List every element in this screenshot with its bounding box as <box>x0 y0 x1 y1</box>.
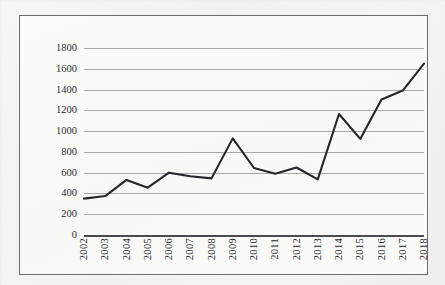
x-axis-tick-label: 2003 <box>100 238 111 260</box>
x-axis-tick-label: 2005 <box>143 238 154 260</box>
y-axis-tick-label: 0 <box>72 230 77 241</box>
plot-area: 020040060080010001200140016001800 <box>84 48 424 235</box>
y-axis-tick-label: 1200 <box>56 105 77 116</box>
data-line-series <box>84 64 424 199</box>
x-axis-tick-label: 2014 <box>334 238 345 260</box>
x-axis-tick-label: 2004 <box>122 238 133 260</box>
y-axis-tick-label: 800 <box>61 147 77 158</box>
y-axis-tick-label: 600 <box>61 167 77 178</box>
y-axis-tick-label: 1600 <box>56 64 77 75</box>
x-axis-tick-label: 2012 <box>292 238 303 260</box>
x-axis-tick-label: 2017 <box>398 238 409 260</box>
x-axis-tick-label: 2011 <box>270 238 281 260</box>
x-axis-tick-label: 2016 <box>377 238 388 260</box>
y-axis-tick-label: 1400 <box>56 84 77 95</box>
x-axis-tick-label: 2009 <box>228 238 239 260</box>
x-axis-tick-labels: 2002200320042005200620072008200920102011… <box>84 238 424 278</box>
chart-frame: 020040060080010001200140016001800 200220… <box>19 15 428 275</box>
y-axis-tick-label: 200 <box>61 209 77 220</box>
x-axis-tick-label: 2015 <box>355 238 366 260</box>
y-axis-tick-label: 400 <box>61 188 77 199</box>
line-series-svg <box>84 48 424 235</box>
x-axis-tick-label: 2008 <box>207 238 218 260</box>
x-axis-tick-label: 2002 <box>79 238 90 260</box>
x-axis-tick-label: 2010 <box>249 238 260 260</box>
y-axis-tick-label: 1800 <box>56 43 77 54</box>
x-axis-tick-label: 2013 <box>313 238 324 260</box>
x-axis-tick-label: 2007 <box>185 238 196 260</box>
x-axis-tick-label: 2018 <box>419 238 430 260</box>
axis-baseline <box>84 235 424 237</box>
x-axis-tick-label: 2006 <box>164 238 175 260</box>
y-axis-tick-label: 1000 <box>56 126 77 137</box>
